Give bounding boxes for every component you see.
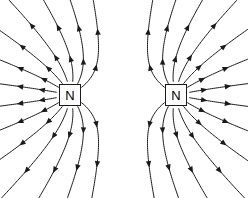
field-arrowhead bbox=[172, 56, 177, 63]
field-arrowhead bbox=[186, 55, 192, 62]
field-arrowhead bbox=[54, 55, 60, 62]
field-arrowhead bbox=[160, 58, 165, 64]
field-line bbox=[188, 103, 248, 132]
field-line bbox=[173, 109, 209, 198]
field-line bbox=[147, 103, 164, 198]
field-arrowhead bbox=[145, 28, 150, 35]
field-line bbox=[188, 58, 248, 87]
field-arrowhead bbox=[75, 164, 80, 171]
field-arrowhead bbox=[146, 161, 151, 168]
field-arrowhead bbox=[81, 58, 86, 64]
field-arrowhead bbox=[95, 28, 100, 35]
field-arrowhead bbox=[188, 132, 194, 139]
field-line bbox=[0, 109, 67, 198]
field-arrowhead bbox=[68, 131, 73, 138]
field-arrowhead bbox=[225, 84, 232, 89]
field-arrowhead bbox=[160, 127, 165, 133]
field-arrowhead bbox=[225, 101, 232, 106]
pole-marker-right: N bbox=[165, 84, 187, 106]
field-arrowhead bbox=[93, 121, 98, 128]
field-arrowhead bbox=[220, 139, 227, 145]
field-arrowhead bbox=[220, 45, 227, 51]
field-line bbox=[184, 27, 248, 83]
field-line bbox=[163, 0, 178, 83]
field-line bbox=[7, 0, 68, 81]
field-lines-canvas bbox=[0, 0, 248, 198]
field-arrowhead bbox=[17, 100, 24, 105]
field-arrowhead bbox=[201, 97, 208, 102]
field-arrowhead bbox=[39, 97, 46, 102]
field-line bbox=[42, 0, 73, 81]
field-arrowhead bbox=[165, 164, 170, 171]
field-line bbox=[0, 103, 58, 132]
field-line bbox=[147, 0, 164, 87]
field-line bbox=[37, 109, 73, 198]
field-arrowhead bbox=[69, 56, 74, 63]
field-arrowhead bbox=[93, 64, 98, 71]
field-arrowhead bbox=[201, 88, 208, 93]
field-arrowhead bbox=[39, 88, 46, 93]
field-arrowhead bbox=[17, 84, 24, 89]
field-arrowhead bbox=[19, 45, 26, 51]
field-line bbox=[190, 83, 248, 92]
field-line bbox=[0, 98, 56, 107]
field-line-group bbox=[0, 0, 248, 198]
field-arrowhead bbox=[147, 121, 152, 128]
field-line bbox=[66, 107, 83, 198]
field-line bbox=[190, 98, 248, 107]
field-line bbox=[82, 0, 99, 87]
pole-label-left: N bbox=[65, 89, 74, 102]
field-arrowhead bbox=[19, 139, 26, 145]
field-line bbox=[179, 0, 240, 81]
field-arrowhead bbox=[148, 64, 153, 71]
field-arrowhead bbox=[52, 132, 58, 139]
field-line bbox=[0, 28, 62, 83]
field-line bbox=[0, 59, 58, 88]
field-line bbox=[163, 107, 180, 198]
field-arrowhead bbox=[81, 127, 86, 133]
field-line bbox=[82, 103, 99, 198]
field-line bbox=[0, 83, 56, 92]
field-line bbox=[69, 0, 84, 83]
magnetic-field-diagram: N N bbox=[0, 0, 248, 198]
pole-label-right: N bbox=[171, 89, 180, 102]
field-arrowhead bbox=[95, 161, 100, 168]
field-arrowhead bbox=[173, 131, 178, 138]
pole-marker-left: N bbox=[59, 84, 81, 106]
